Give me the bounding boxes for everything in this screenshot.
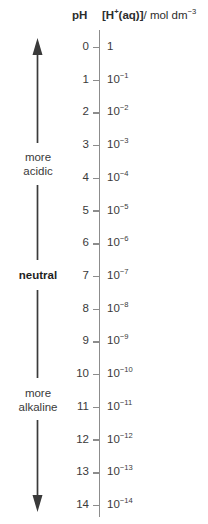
concentration-value-ph-13: 10−13 <box>107 465 133 477</box>
concentration-mantissa-ph-9: 10 <box>107 334 120 346</box>
concentration-exponent-ph-11: −11 <box>120 398 132 407</box>
concentration-exponent-ph-10: −10 <box>120 365 133 374</box>
concentration-mantissa-ph-5: 10 <box>107 204 120 216</box>
ph-tick-5 <box>93 210 100 211</box>
ph-value-1: 1 <box>61 73 89 85</box>
concentration-value-ph-14: 10−14 <box>107 498 133 510</box>
concentration-value-ph-1: 10−1 <box>107 73 128 85</box>
ph-value-0: 0 <box>61 40 89 52</box>
concentration-exponent-ph-2: −2 <box>120 104 129 113</box>
concentration-value-ph-6: 10−6 <box>107 236 128 248</box>
ph-tick-7 <box>93 276 100 277</box>
concentration-mantissa-ph-0: 1 <box>107 40 113 52</box>
ph-value-9: 9 <box>61 334 89 346</box>
ph-tick-3 <box>93 145 100 146</box>
concentration-value-ph-5: 10−5 <box>107 204 128 216</box>
concentration-exponent-ph-13: −13 <box>120 464 133 473</box>
ph-value-6: 6 <box>61 236 89 248</box>
ph-tick-0 <box>93 47 100 48</box>
concentration-mantissa-ph-6: 10 <box>107 236 120 248</box>
ph-tick-9 <box>93 341 100 342</box>
ph-axis-line <box>99 30 100 517</box>
concentration-exponent-ph-6: −6 <box>120 234 129 243</box>
ph-tick-10 <box>93 374 100 375</box>
ph-value-4: 4 <box>61 171 89 183</box>
concentration-exponent-ph-14: −14 <box>120 496 133 505</box>
concentration-exponent-ph-1: −1 <box>120 71 129 80</box>
ph-tick-12 <box>93 439 100 440</box>
concentration-exponent-ph-9: −9 <box>120 333 129 342</box>
concentration-exponent-ph-4: −4 <box>120 169 129 178</box>
concentration-mantissa-ph-13: 10 <box>107 465 120 477</box>
concentration-exponent-ph-7: −7 <box>120 267 129 276</box>
concentration-value-ph-0: 1 <box>107 40 113 52</box>
ph-value-12: 12 <box>61 433 89 445</box>
ph-value-14: 14 <box>61 498 89 510</box>
ph-tick-11 <box>93 407 100 408</box>
concentration-value-ph-11: 10−11 <box>107 400 132 412</box>
ph-tick-8 <box>93 309 100 310</box>
ph-tick-14 <box>93 505 100 506</box>
concentration-mantissa-ph-12: 10 <box>107 433 120 445</box>
concentration-value-ph-3: 10−3 <box>107 138 128 150</box>
ph-value-8: 8 <box>61 302 89 314</box>
concentration-mantissa-ph-2: 10 <box>107 105 120 117</box>
ph-tick-13 <box>93 472 100 473</box>
ph-tick-4 <box>93 178 100 179</box>
concentration-value-ph-10: 10−10 <box>107 367 133 379</box>
concentration-mantissa-ph-3: 10 <box>107 138 120 150</box>
ph-tick-6 <box>93 243 100 244</box>
concentration-mantissa-ph-1: 10 <box>107 73 120 85</box>
concentration-mantissa-ph-4: 10 <box>107 171 120 183</box>
concentration-exponent-ph-3: −3 <box>120 136 129 145</box>
ph-value-10: 10 <box>61 367 89 379</box>
concentration-value-ph-8: 10−8 <box>107 302 128 314</box>
concentration-mantissa-ph-8: 10 <box>107 302 120 314</box>
concentration-value-ph-12: 10−12 <box>107 433 133 445</box>
ph-value-11: 11 <box>61 400 89 412</box>
ph-value-13: 13 <box>61 465 89 477</box>
concentration-mantissa-ph-7: 10 <box>107 269 120 281</box>
concentration-value-ph-7: 10−7 <box>107 269 128 281</box>
concentration-exponent-ph-5: −5 <box>120 202 129 211</box>
concentration-mantissa-ph-14: 10 <box>107 498 120 510</box>
ph-value-7: 7 <box>61 269 89 281</box>
concentration-value-ph-4: 10−4 <box>107 171 128 183</box>
concentration-value-ph-9: 10−9 <box>107 334 128 346</box>
ph-scale: 01110−1210−2310−3410−4510−5610−6710−7810… <box>0 0 208 524</box>
concentration-exponent-ph-12: −12 <box>120 431 133 440</box>
concentration-mantissa-ph-11: 10 <box>107 400 120 412</box>
concentration-exponent-ph-8: −8 <box>120 300 129 309</box>
ph-tick-2 <box>93 112 100 113</box>
ph-value-2: 2 <box>61 105 89 117</box>
ph-value-5: 5 <box>61 204 89 216</box>
ph-value-3: 3 <box>61 138 89 150</box>
ph-tick-1 <box>93 80 100 81</box>
concentration-value-ph-2: 10−2 <box>107 105 128 117</box>
concentration-mantissa-ph-10: 10 <box>107 367 120 379</box>
